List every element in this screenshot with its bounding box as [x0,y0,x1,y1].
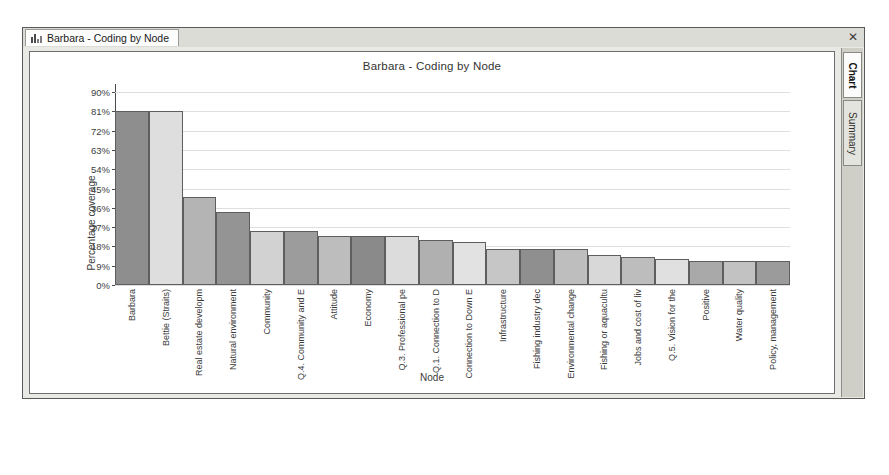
bar[interactable] [351,236,385,285]
close-icon[interactable]: ✕ [845,29,861,45]
bar-slot [318,92,352,285]
bar[interactable] [588,255,622,285]
x-label-slot: Attitude [318,287,352,382]
tab-chart-label: Chart [847,62,858,88]
x-tick-label: Bettie (Straits) [161,289,171,346]
x-tick-label: Natural environment [228,289,238,370]
bar-slot [115,92,149,285]
x-tick-label: Connection to Down E [464,289,474,379]
x-label-slot: Economy [351,287,385,382]
bar[interactable] [419,240,453,285]
x-label-slot: Fishing or aquacultu [588,287,622,382]
x-tick-label: Water quality [734,289,744,341]
document-tab-label: Barbara - Coding by Node [47,32,169,44]
gridline [115,285,790,286]
bar[interactable] [554,249,588,285]
y-tick-label: 90% [91,87,110,98]
x-tick-label: Fishing industry dec [532,289,542,369]
y-tick-label: 9% [96,260,110,271]
x-tick-label: Q.4. Community and E [296,289,306,380]
x-label-slot: Q.5. Vision for the [655,287,689,382]
tab-summary-label: Summary [847,112,858,155]
bar-slot [554,92,588,285]
chart-window: Barbara - Coding by Node ✕ Barbara - Cod… [22,27,865,399]
x-label-slot: Community [250,287,284,382]
x-tick-label: Infrastructure [498,289,508,342]
bar[interactable] [453,242,487,285]
bar-slot [453,92,487,285]
bar-slot [655,92,689,285]
x-tick-label: Real estate developm [194,289,204,376]
bar[interactable] [115,111,149,285]
x-tick-label: Q.1. Connection to D [431,289,441,373]
bar[interactable] [486,249,520,285]
bar-slot [419,92,453,285]
bar-slot [723,92,757,285]
bar-slot [216,92,250,285]
x-label-slot: Q.4. Community and E [284,287,318,382]
bar[interactable] [318,236,352,285]
bar[interactable] [655,259,689,285]
plot-area: 90%81%72%63%54%45%36%27%18%9%0% [115,92,790,285]
bar[interactable] [149,111,183,285]
bar[interactable] [621,257,655,285]
tab-summary[interactable]: Summary [843,100,862,166]
bar-slot [588,92,622,285]
document-tab-barbara-coding-by-node[interactable]: Barbara - Coding by Node [25,29,179,46]
x-tick-label: Q.3. Professional pe [397,289,407,371]
x-label-slot: Connection to Down E [453,287,487,382]
bar-slot [250,92,284,285]
x-tick-label: Community [262,289,272,335]
x-axis-title: Node [30,372,834,383]
y-tick-label: 36% [91,202,110,213]
bar-series [115,92,790,285]
view-tab-rail: Chart Summary [841,48,863,397]
screen: Barbara - Coding by Node ✕ Barbara - Cod… [0,0,889,475]
bar[interactable] [183,197,217,285]
bar-slot [284,92,318,285]
bar[interactable] [250,231,284,285]
x-label-slot: Barbara [115,287,149,382]
bar-slot [385,92,419,285]
tab-chart[interactable]: Chart [843,52,862,98]
bar-slot [520,92,554,285]
bar-slot [756,92,790,285]
bar[interactable] [756,261,790,285]
y-tick-mark [112,285,115,286]
bar[interactable] [284,231,318,285]
x-axis-category-labels: BarbaraBettie (Straits)Real estate devel… [115,287,790,382]
x-tick-label: Attitude [329,289,339,320]
bar-slot [351,92,385,285]
x-tick-label: Barbara [127,289,137,321]
document-tab-strip: Barbara - Coding by Node ✕ [23,28,864,47]
bar[interactable] [520,249,554,285]
y-tick-label: 0% [96,280,110,291]
bar-slot [621,92,655,285]
x-tick-label: Policy, management [768,289,778,370]
x-label-slot: Water quality [723,287,757,382]
x-label-slot: Real estate developm [183,287,217,382]
x-label-slot: Environmental change [554,287,588,382]
x-tick-label: Jobs and cost of liv [633,289,643,366]
bar[interactable] [216,212,250,285]
x-tick-label: Environmental change [566,289,576,379]
x-label-slot: Infrastructure [486,287,520,382]
y-tick-label: 72% [91,125,110,136]
x-tick-label: Fishing or aquacultu [599,289,609,370]
x-tick-label: Positive [701,289,711,321]
x-label-slot: Q.3. Professional pe [385,287,419,382]
y-tick-label: 18% [91,241,110,252]
y-tick-label: 63% [91,144,110,155]
bar-slot [183,92,217,285]
bar[interactable] [723,261,757,285]
y-tick-label: 27% [91,222,110,233]
y-tick-label: 45% [91,183,110,194]
bar-slot [689,92,723,285]
bar[interactable] [689,261,723,285]
bar-chart-icon [31,33,42,43]
chart-canvas: Barbara - Coding by Node Percentage cove… [29,51,835,394]
x-tick-label: Economy [363,289,373,327]
x-label-slot: Q.1. Connection to D [419,287,453,382]
bar[interactable] [385,236,419,285]
x-label-slot: Bettie (Straits) [149,287,183,382]
